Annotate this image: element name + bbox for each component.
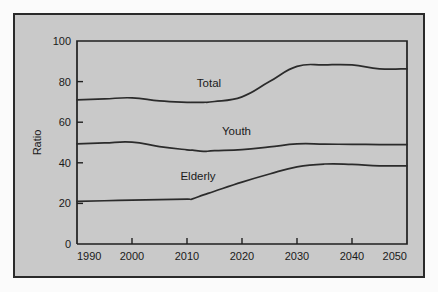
x-tick-label: 2030 <box>285 250 309 262</box>
y-axis-title: Ratio <box>31 130 43 156</box>
line-chart: 020406080100 199020002010202020302040205… <box>15 15 423 276</box>
y-tick-label: 0 <box>65 238 71 250</box>
x-tick-label: 1990 <box>77 250 101 262</box>
y-tick-label: 80 <box>59 76 71 88</box>
x-axis-tick-group: 1990200020102020203020402050 <box>77 238 407 262</box>
y-tick-label: 60 <box>59 116 71 128</box>
series-label-elderly: Elderly <box>180 170 215 182</box>
x-tick-label: 2000 <box>120 250 144 262</box>
series-label-youth: Youth <box>222 125 251 137</box>
x-tick-label: 2050 <box>383 250 407 262</box>
y-tick-label: 40 <box>59 157 71 169</box>
y-tick-label: 20 <box>59 197 71 209</box>
series-label-total: Total <box>197 77 221 89</box>
chart-panel: 020406080100 199020002010202020302040205… <box>13 13 425 278</box>
x-tick-label: 2020 <box>230 250 254 262</box>
series-line-total <box>77 64 407 102</box>
series-line-elderly <box>77 164 407 202</box>
figure-root: 020406080100 199020002010202020302040205… <box>0 0 438 292</box>
x-tick-label: 2010 <box>175 250 199 262</box>
y-tick-label: 100 <box>53 35 71 47</box>
series-line-youth <box>77 142 407 152</box>
x-tick-label: 2040 <box>340 250 364 262</box>
y-axis-tick-group: 020406080100 <box>53 35 83 250</box>
series-label-group: TotalYouthElderly <box>180 77 251 182</box>
